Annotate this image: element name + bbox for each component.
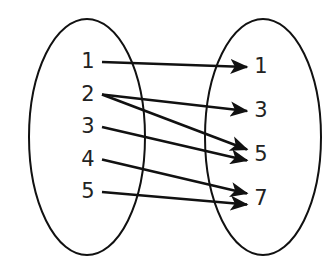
domain-element-4: 4: [81, 147, 94, 171]
mapping-arrow-4-to-7: [102, 160, 247, 194]
range-element-3: 3: [254, 98, 267, 122]
mapping-arrow-5-to-7: [102, 192, 247, 205]
range-elements: 1357: [254, 54, 267, 210]
domain-element-1: 1: [81, 49, 94, 73]
mapping-diagram: 12345 1357: [0, 0, 335, 269]
range-element-5: 5: [254, 142, 267, 166]
range-element-7: 7: [254, 186, 267, 210]
mapping-arrows: [102, 62, 247, 205]
domain-element-3: 3: [81, 114, 94, 138]
domain-element-5: 5: [81, 179, 94, 203]
domain-element-2: 2: [81, 82, 94, 106]
mapping-arrow-3-to-5: [102, 127, 247, 161]
range-element-1: 1: [254, 54, 267, 78]
domain-elements: 12345: [81, 49, 94, 203]
mapping-arrow-1-to-1: [102, 62, 247, 67]
